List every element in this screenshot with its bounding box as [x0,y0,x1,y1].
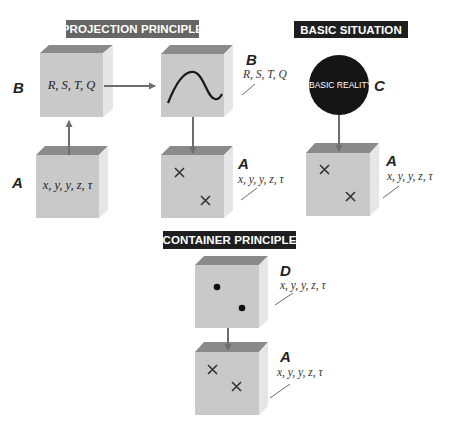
label-b: B [13,79,24,96]
diagram-graphics [0,0,453,425]
label-b-curve: B [246,51,257,68]
vars-d: x, y, y, z, τ [280,279,326,291]
cube-projection-a-crosses [161,146,233,218]
leader-line [275,293,293,305]
label-a: A [12,174,23,191]
label-c: C [374,77,385,94]
dot-icon [239,305,246,312]
cube-container-a [195,342,268,415]
leader-line [270,384,290,398]
cube-projection-b-curve [161,45,233,117]
dot-icon [214,284,221,291]
leader-line [241,188,257,200]
label-a-container: A [280,348,291,365]
vars-a-basic: x, y, y, z, τ [387,170,433,182]
basic-reality-text: BASIC REALITY [309,80,370,90]
container-principle-title: CONTAINER PRINCIPLE [163,231,296,249]
leader-line [242,84,255,95]
vars-a: x, y, y, z, τ [36,178,99,193]
projection-principle-title: PROJECTION PRINCIPLE [66,20,199,38]
cube-basic-a [306,143,379,216]
label-a-basic: A [386,152,397,169]
cube-container-d [195,256,268,328]
label-d: D [280,262,291,279]
vars-a-container: x, y, y, z, τ [277,366,323,378]
leader-line [383,186,399,198]
vars-b-curve: R, S, T, Q [243,68,287,80]
vars-a-crosses: x, y, y, z, τ [238,173,284,185]
basic-situation-title: BASIC SITUATION [294,21,408,38]
label-a-crosses: A [238,155,249,172]
vars-b: R, S, T, Q [40,78,103,93]
